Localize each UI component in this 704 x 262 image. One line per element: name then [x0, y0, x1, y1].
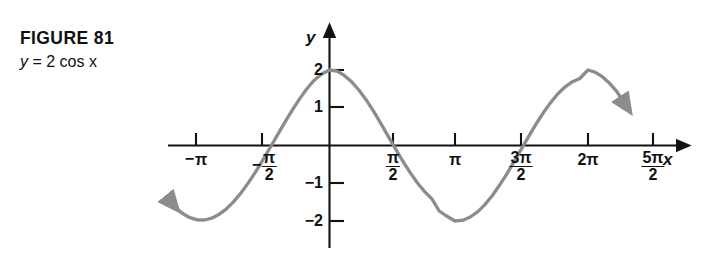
x-tick-label-five-pi-over-2-fraction: 5π2	[641, 150, 664, 184]
cosine-plot: x y −π −π2 π2 π 3π2 2π 5π2 2 1 −1 −2	[0, 0, 704, 262]
x-tick-label-three-pi-over-2-fraction: 3π2	[509, 150, 532, 184]
x-tick-label-pi-over-2: π2	[386, 150, 400, 184]
x-tick-label-three-pi-over-2: 3π2	[509, 150, 532, 184]
figure-page: FIGURE 81 y = 2 cos x	[0, 0, 704, 262]
y-axis-label: y	[306, 28, 315, 48]
x-tick-label-neg-pi-sign: −	[185, 151, 195, 167]
x-tick-label-neg-pi-over-2-sign: −	[252, 157, 262, 173]
x-tick-label-pi-over-2-fraction: π2	[386, 150, 400, 184]
x-tick-label-two-pi: 2π	[577, 152, 598, 168]
x-tick-label-two-pi-text: 2π	[577, 151, 598, 168]
fraction-denominator: 2	[509, 167, 532, 183]
x-tick-label-pi-text: π	[449, 151, 461, 168]
x-tick-label-neg-pi: −π	[185, 152, 208, 169]
x-tick-label-pi: π	[449, 152, 461, 168]
fraction-numerator: π	[386, 150, 400, 167]
plot-graphics	[0, 0, 704, 262]
x-tick-label-neg-pi-over-2-fraction: π2	[262, 150, 276, 184]
y-tick-label-1: 1	[295, 99, 323, 115]
y-tick-label-2: 2	[295, 62, 323, 78]
fraction-denominator: 2	[641, 167, 664, 183]
fraction-numerator: 5π	[641, 150, 664, 167]
fraction-numerator: 3π	[509, 150, 532, 167]
x-tick-label-five-pi-over-2: 5π2	[641, 150, 664, 184]
y-tick-label-neg-2: −2	[291, 213, 323, 229]
fraction-denominator: 2	[262, 167, 276, 183]
fraction-denominator: 2	[386, 167, 400, 183]
x-tick-label-neg-pi-over-2: −π2	[252, 150, 277, 184]
fraction-numerator: π	[262, 150, 276, 167]
x-tick-label-neg-pi-text: π	[195, 151, 207, 168]
y-tick-label-neg-1: −1	[291, 175, 323, 191]
x-axis-ticks	[196, 133, 653, 146]
